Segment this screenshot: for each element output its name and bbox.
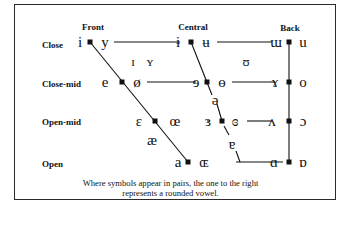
vowel-close-mid-back-rounded: o <box>299 75 307 90</box>
vowel-close-mid-back-unrounded: ɤ <box>272 75 279 90</box>
row-label-close: Close <box>42 40 63 50</box>
vowel-close-mid-central-rounded: ɵ <box>218 75 226 90</box>
vowel-close-front-unrounded: i <box>78 35 82 50</box>
header-back: Back <box>280 23 300 33</box>
rounding-note: Where symbols appear in pairs, the one t… <box>0 178 341 198</box>
vowel-open-mid-central-rounded: ɞ <box>232 114 239 129</box>
vowel-near-close-front-rounded: ʏ <box>147 55 153 68</box>
note-line-2: represents a rounded vowel. <box>0 188 341 198</box>
vowel-close-back-unrounded: ɯ <box>270 35 282 50</box>
vowel-close-central-rounded: ʉ <box>202 35 210 50</box>
vowel-open-mid-central-unrounded: ɜ <box>205 114 211 129</box>
vowel-close-mid-front-unrounded: e <box>102 75 109 90</box>
header-front: Front <box>82 22 104 32</box>
vowel-open-mid-front-rounded: œ <box>170 114 181 129</box>
vowel-close-mid-central-unrounded: ɘ <box>193 75 200 90</box>
vowel-open-mid-back-unrounded: ʌ <box>268 114 276 129</box>
vowel-open-front-unrounded: a <box>175 155 182 170</box>
row-label-open-mid: Open-mid <box>42 117 81 127</box>
vowel-close-back-rounded: u <box>299 35 307 50</box>
vowel-open-back-unrounded: ɑ <box>270 155 278 170</box>
note-line-1: Where symbols appear in pairs, the one t… <box>0 178 341 188</box>
row-label-open: Open <box>42 159 63 169</box>
vowel-mid-central-schwa: ə <box>212 93 219 108</box>
vowel-near-open-front: æ <box>147 133 157 148</box>
vowel-near-open-central: ɐ <box>229 137 236 152</box>
vowel-open-front-rounded: ɶ <box>199 155 208 170</box>
vowel-open-mid-back-rounded: ɔ <box>300 114 307 129</box>
vowel-close-central-unrounded: ɨ <box>176 35 180 50</box>
vowel-near-close-front-unrounded: ɪ <box>131 55 135 68</box>
row-label-close-mid: Close-mid <box>42 79 81 89</box>
vowel-open-back-rounded: ɒ <box>299 155 307 170</box>
vowel-close-front-rounded: y <box>101 35 109 50</box>
vowel-close-mid-front-rounded: ø <box>133 75 141 90</box>
header-central: Central <box>178 22 208 32</box>
vowel-near-close-back-rounded: ʊ <box>242 55 249 68</box>
vowel-open-mid-front-unrounded: ɛ <box>136 114 142 129</box>
